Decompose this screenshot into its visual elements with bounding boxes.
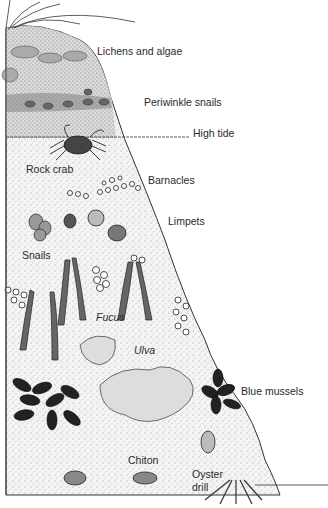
label-lichens: Lichens and algae (97, 46, 182, 57)
lichen-zone (6, 26, 116, 138)
label-barnacles: Barnacles (148, 175, 195, 186)
label-limpets: Limpets (168, 216, 205, 227)
label-fucus: Fucus (96, 312, 125, 323)
label-oyster-drill-line2: drill (192, 482, 208, 493)
label-snails: Snails (22, 250, 51, 261)
oyster-drill-shell (201, 431, 215, 453)
lichen-patch (38, 53, 62, 63)
label-ulva: Ulva (134, 345, 155, 356)
lichen-patch (63, 51, 87, 61)
label-blue-mussels: Blue mussels (241, 386, 303, 397)
label-high-tide: High tide (193, 128, 234, 139)
label-rock-crab: Rock crab (26, 164, 73, 175)
lichen-patch (2, 68, 18, 82)
label-oyster-drill-line1: Oyster (192, 469, 223, 480)
lichen-patch (11, 46, 39, 58)
label-chiton: Chiton (128, 455, 158, 466)
label-periwinkle: Periwinkle snails (144, 97, 222, 108)
